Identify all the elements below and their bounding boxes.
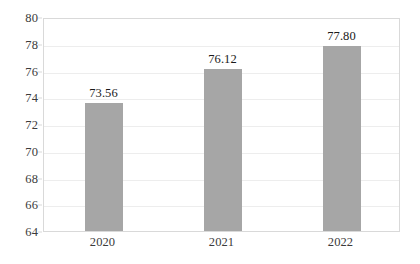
x-axis-tick-label: 2020 — [63, 236, 143, 249]
bar — [85, 103, 123, 231]
y-axis-tick-label: 74 — [0, 92, 38, 105]
y-axis-tick-mark — [38, 18, 42, 19]
y-axis-tick-mark — [38, 151, 42, 152]
y-axis-tick-label: 78 — [0, 39, 38, 52]
bar-value-label: 77.80 — [302, 30, 382, 43]
y-axis-tick-label: 66 — [0, 199, 38, 212]
y-axis-tick-mark — [38, 125, 42, 126]
y-axis-tick-label: 68 — [0, 172, 38, 185]
y-axis-tick-mark — [38, 71, 42, 72]
y-axis-tick-mark — [38, 178, 42, 179]
y-axis-tick-mark — [38, 44, 42, 45]
y-axis-tick-label: 76 — [0, 65, 38, 78]
y-axis-tick-label: 72 — [0, 119, 38, 132]
bar-value-label: 76.12 — [183, 53, 263, 66]
bar-value-label: 73.56 — [64, 87, 144, 100]
y-axis: 807876747270686664 — [0, 18, 38, 232]
bar — [204, 69, 242, 231]
y-axis-tick-mark — [38, 232, 42, 233]
x-axis-tick-label: 2021 — [182, 236, 262, 249]
y-axis-tick-label: 70 — [0, 146, 38, 159]
x-axis: 202020212022 — [43, 236, 400, 256]
bar — [323, 46, 361, 231]
y-axis-tick-label: 80 — [0, 12, 38, 25]
x-axis-tick-label: 2022 — [301, 236, 381, 249]
y-axis-tick-mark — [38, 98, 42, 99]
y-axis-tick-mark — [38, 205, 42, 206]
plot-area: 73.5676.1277.80 — [43, 18, 400, 232]
bar-chart: 73.5676.1277.80 807876747270686664 20202… — [0, 0, 420, 264]
y-axis-tick-label: 64 — [0, 226, 38, 239]
